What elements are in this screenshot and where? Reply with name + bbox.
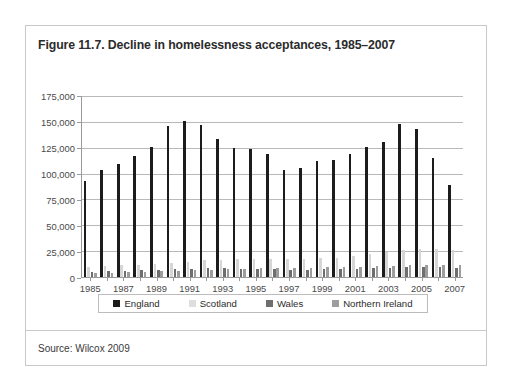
x-axis-tick-mark — [90, 277, 91, 281]
bar-ni — [425, 265, 428, 277]
bar-group: 1991 — [181, 96, 198, 277]
x-axis-tick-mark — [355, 277, 356, 281]
bar-ni — [260, 268, 263, 277]
x-axis-tick-mark — [190, 277, 191, 281]
bar-group: 1985 — [82, 96, 99, 277]
bar-group — [330, 96, 347, 277]
bar-scotland — [137, 265, 140, 277]
bar-scotland — [154, 264, 157, 277]
x-axis-tick-mark — [388, 277, 389, 281]
plot-wrapper: 1985198719891991199319951997199920012003… — [81, 96, 463, 278]
y-axis-tick-label: 100,000 — [41, 169, 75, 180]
bar-england — [283, 170, 286, 277]
bar-wales — [439, 267, 442, 277]
bar-england — [266, 154, 269, 277]
bar-england — [233, 148, 236, 277]
y-axis-tick-label: 75,000 — [46, 195, 75, 206]
bar-england — [432, 158, 435, 277]
legend-label: Northern Ireland — [343, 298, 412, 309]
bar-wales — [174, 269, 177, 277]
bar-group: 2003 — [380, 96, 397, 277]
bar-ni — [326, 267, 329, 277]
source-note: Source: Wilcox 2009 — [38, 343, 130, 354]
x-axis-tick-mark — [306, 277, 307, 281]
bar-ni — [409, 265, 412, 277]
bar-scotland — [104, 266, 107, 277]
bar-group — [264, 96, 281, 277]
bar-group — [132, 96, 149, 277]
bar-england — [150, 147, 153, 277]
bar-wales — [422, 267, 425, 277]
legend-swatch-wales — [266, 300, 273, 307]
x-axis-tick-label: 1993 — [212, 283, 233, 294]
legend-swatch-scotland — [189, 300, 196, 307]
bar-england — [349, 154, 352, 277]
bar-ni — [177, 271, 180, 277]
bar-ni — [276, 268, 279, 277]
bar-group — [231, 96, 248, 277]
legend-label: Scotland — [200, 298, 237, 309]
bar-scotland — [303, 259, 306, 277]
bar-group — [430, 96, 447, 277]
bar-ni — [459, 265, 462, 277]
bar-ni — [310, 268, 313, 277]
bar-wales — [223, 268, 226, 277]
footer-divider — [26, 330, 486, 331]
x-axis-tick-label: 1999 — [312, 283, 333, 294]
x-axis-tick-label: 2003 — [378, 283, 399, 294]
x-axis-tick-label: 2005 — [411, 283, 432, 294]
y-axis-tick-mark — [77, 174, 81, 175]
bar-england — [299, 168, 302, 277]
bar-scotland — [220, 260, 223, 277]
x-axis-tick-mark — [339, 277, 340, 281]
bar-group: 2005 — [413, 96, 430, 277]
bar-scotland — [253, 259, 256, 277]
bar-group: 1987 — [115, 96, 132, 277]
bar-scotland — [452, 250, 455, 277]
bar-england — [382, 142, 385, 277]
bar-ni — [160, 271, 163, 277]
bar-scotland — [187, 262, 190, 278]
x-axis-tick-label: 1995 — [245, 283, 266, 294]
x-axis-tick-mark — [422, 277, 423, 281]
bar-england — [365, 147, 368, 277]
bar-group — [165, 96, 182, 277]
y-axis-tick-label: 150,000 — [41, 117, 75, 128]
bar-group — [297, 96, 314, 277]
bar-wales — [157, 270, 160, 277]
x-axis-tick-mark — [206, 277, 207, 281]
x-axis-tick-mark — [322, 277, 323, 281]
bar-ni — [359, 267, 362, 277]
x-axis-tick-mark — [438, 277, 439, 281]
bar-group — [364, 96, 381, 277]
bar-england — [249, 149, 252, 277]
x-axis-tick-label: 1991 — [179, 283, 200, 294]
bar-ni — [127, 272, 130, 277]
bar-scotland — [286, 259, 289, 277]
legend-item-scotland: Scotland — [189, 298, 237, 309]
bar-england — [133, 156, 136, 277]
x-axis-tick-mark — [173, 277, 174, 281]
bar-wales — [240, 269, 243, 277]
x-axis-tick-mark — [372, 277, 373, 281]
bar-wales — [140, 270, 143, 277]
bar-scotland — [120, 265, 123, 277]
bar-england — [84, 181, 87, 277]
bar-wales — [405, 267, 408, 277]
bar-wales — [323, 269, 326, 277]
bar-scotland — [269, 259, 272, 277]
bar-scotland — [352, 256, 355, 277]
x-axis-tick-label: 1987 — [113, 283, 134, 294]
y-axis-tick-label: 0 — [70, 273, 75, 284]
bar-ni — [227, 269, 230, 277]
bar-scotland — [419, 249, 422, 277]
bar-england — [100, 170, 103, 277]
bar-england — [316, 161, 319, 277]
y-axis-tick-mark — [77, 122, 81, 123]
bar-group: 1999 — [314, 96, 331, 277]
bar-scotland — [385, 252, 388, 277]
bar-ni — [442, 265, 445, 277]
bar-scotland — [236, 259, 239, 277]
bar-wales — [356, 269, 359, 277]
y-axis-tick-label: 50,000 — [46, 221, 75, 232]
